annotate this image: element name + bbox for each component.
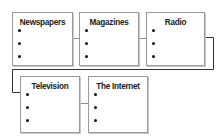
bullet-icon — [26, 106, 29, 109]
bullet-icon — [152, 29, 155, 32]
node-title: Magazines — [84, 16, 134, 27]
bullet-list — [94, 93, 97, 132]
node-magazines: Magazines — [79, 12, 139, 66]
bullet-icon — [18, 29, 21, 32]
bullet-icon — [85, 55, 88, 58]
bullet-icon — [85, 42, 88, 45]
bullet-icon — [152, 42, 155, 45]
bullet-list — [26, 93, 29, 132]
bullet-list — [152, 29, 155, 68]
node-title: Television — [25, 80, 75, 91]
node-the-internet: The Internet — [88, 76, 148, 133]
bullet-icon — [85, 29, 88, 32]
bullet-icon — [26, 93, 29, 96]
node-radio: Radio — [146, 12, 205, 66]
bullet-icon — [152, 55, 155, 58]
node-title: The Internet — [93, 80, 143, 91]
bullet-list — [18, 29, 21, 68]
bullet-icon — [18, 42, 21, 45]
node-title: Radio — [151, 16, 200, 27]
bullet-icon — [94, 119, 97, 122]
node-title: Newspapers — [17, 16, 68, 27]
node-television: Television — [20, 76, 80, 133]
bullet-icon — [26, 119, 29, 122]
bullet-icon — [18, 55, 21, 58]
bullet-icon — [94, 106, 97, 109]
node-newspapers: Newspapers — [12, 12, 73, 66]
media-flow-diagram: Newspapers Magazines Radio Television — [0, 0, 222, 140]
bullet-list — [85, 29, 88, 68]
bullet-icon — [94, 93, 97, 96]
